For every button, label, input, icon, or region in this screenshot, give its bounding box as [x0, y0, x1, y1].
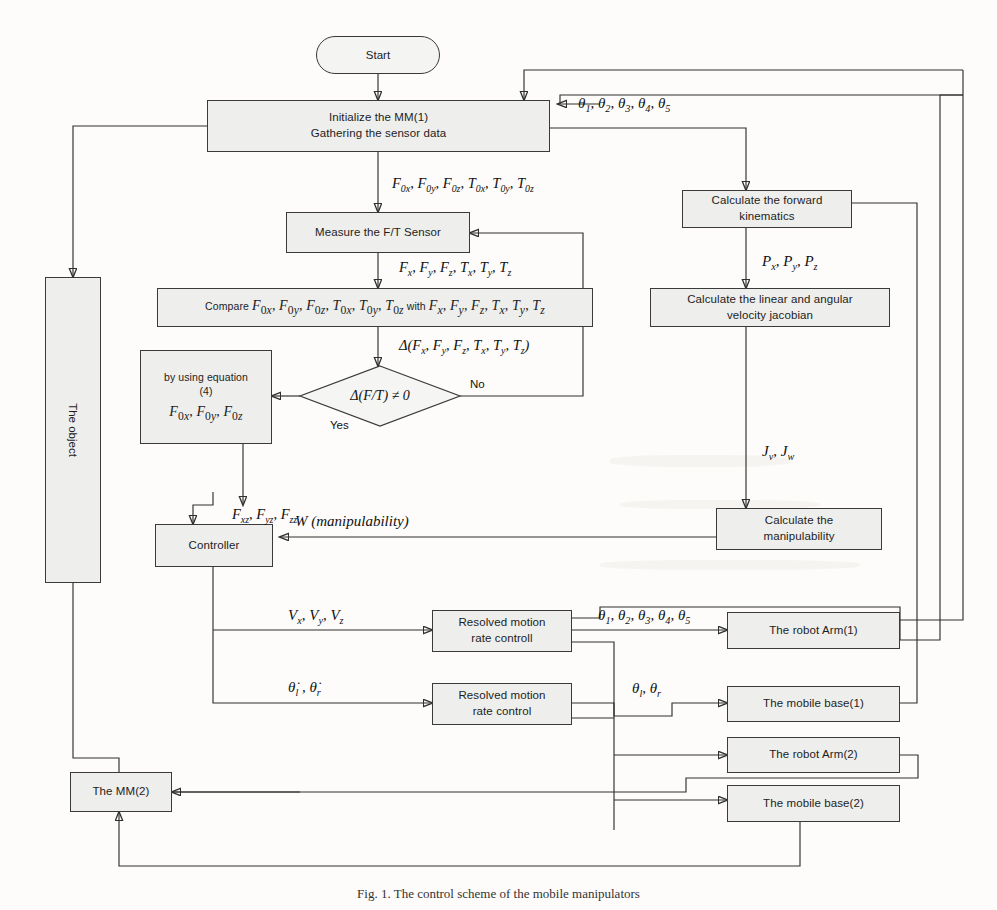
- edge-label-position: Px, Py, Pz: [762, 253, 818, 272]
- flowchart-canvas: Start Initialize the MM(1) Gathering the…: [0, 0, 997, 910]
- node-robot-arm-2-label: The robot Arm(2): [769, 747, 858, 763]
- node-decision-delta[interactable]: Δ(F / T) ≠ 0: [298, 364, 462, 428]
- node-robot-arm-2[interactable]: The robot Arm(2): [727, 737, 900, 773]
- edge-label-theta-arm: θ1, θ2, θ3, θ4, θ5: [598, 607, 690, 626]
- node-rmrc-arm-line2: rate controll: [471, 631, 532, 647]
- node-initialize-line2: Gathering the sensor data: [311, 126, 446, 142]
- edge-label-velocity: Vx, Vy, Vz: [288, 607, 344, 626]
- node-jacobian[interactable]: Calculate the linear and angular velocit…: [650, 288, 890, 327]
- node-rmrc-base-line1: Resolved motion: [458, 688, 545, 704]
- node-start[interactable]: Start: [316, 36, 440, 74]
- node-jacobian-line1: Calculate the linear and angular: [687, 292, 853, 308]
- node-controller-label: Controller: [189, 538, 240, 554]
- edge-label-f0t0: F0x, F0y, F0z, T0x, T0y, T0z: [392, 175, 534, 194]
- scan-artifact: [600, 560, 860, 570]
- edge-label-forces-xyz: Fxz, Fyz, Fzz: [232, 506, 297, 525]
- node-fk-line1: Calculate the forward: [712, 193, 823, 209]
- edge-label-ft: Fx, Fy, Fz, Tx, Ty, Tz: [399, 259, 511, 278]
- node-measure-ft-label: Measure the F/T Sensor: [315, 225, 441, 241]
- node-compare-label: Compare F0x, F0y, F0z, T0x, T0y, T0z wit…: [205, 297, 545, 319]
- edge-label-delta-vector: Δ(Fx, Fy, Fz, Tx, Ty, Tz): [399, 337, 529, 356]
- node-start-label: Start: [366, 49, 390, 61]
- node-rmrc-arm-line1: Resolved motion: [458, 615, 545, 631]
- node-robot-arm-1[interactable]: The robot Arm(1): [727, 612, 900, 649]
- edge-label-yes: Yes: [330, 419, 349, 431]
- node-equation-line3: F0x, F0y, F0z: [169, 403, 242, 425]
- node-object-label: The object: [67, 403, 79, 457]
- node-rmrc-base[interactable]: Resolved motion rate control: [432, 683, 572, 725]
- node-jacobian-line2: velocity jacobian: [727, 308, 813, 324]
- node-manip-line1: Calculate the: [765, 513, 833, 529]
- figure-caption: Fig. 1. The control scheme of the mobile…: [0, 886, 997, 902]
- node-rmrc-base-line2: rate control: [473, 704, 532, 720]
- node-object[interactable]: The object: [45, 277, 101, 583]
- node-compare[interactable]: Compare F0x, F0y, F0z, T0x, T0y, T0z wit…: [157, 288, 593, 327]
- node-controller[interactable]: Controller: [155, 524, 273, 567]
- node-initialize-line1: Initialize the MM(1): [329, 110, 428, 126]
- node-mobile-base-1[interactable]: The mobile base(1): [727, 686, 900, 722]
- node-equation-line1: by using equation: [164, 370, 248, 384]
- node-forward-kinematics[interactable]: Calculate the forward kinematics: [682, 190, 852, 228]
- node-manipulability[interactable]: Calculate the manipulability: [716, 508, 882, 550]
- node-equation-line2: (4): [199, 384, 212, 398]
- node-robot-arm-1-label: The robot Arm(1): [769, 623, 858, 639]
- node-mobile-base-2[interactable]: The mobile base(2): [727, 785, 900, 822]
- node-mobile-base-2-label: The mobile base(2): [763, 796, 864, 812]
- edge-label-theta-dot-lr: θ̇l , θ̇r: [288, 679, 321, 698]
- edge-label-theta-feedback-top: θ1, θ2, θ3, θ4, θ5: [578, 95, 670, 114]
- node-rmrc-arm[interactable]: Resolved motion rate controll: [432, 610, 572, 652]
- node-equation[interactable]: by using equation (4) F0x, F0y, F0z: [140, 350, 272, 444]
- edge-label-jacobian: Jv, Jw: [762, 443, 794, 462]
- edge-label-theta-lr: θl, θr: [632, 680, 661, 699]
- node-fk-line2: kinematics: [739, 209, 794, 225]
- node-manip-line2: manipulability: [763, 529, 834, 545]
- edge-label-no: No: [470, 378, 485, 390]
- node-mobile-base-1-label: The mobile base(1): [763, 696, 864, 712]
- node-measure-ft-sensor[interactable]: Measure the F/T Sensor: [286, 212, 470, 253]
- node-mm2-label: The MM(2): [92, 784, 149, 800]
- edge-label-manipulability: W (manipulability): [295, 513, 409, 530]
- node-initialize[interactable]: Initialize the MM(1) Gathering the senso…: [207, 100, 550, 152]
- node-mm2[interactable]: The MM(2): [70, 772, 172, 812]
